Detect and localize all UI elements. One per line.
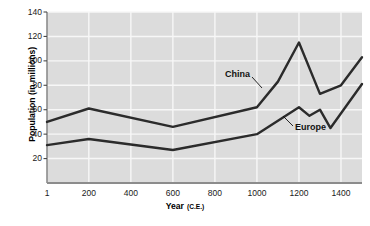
x-axis-title: Year(C.E.) bbox=[0, 202, 370, 211]
x-axis-title-main: Year bbox=[166, 201, 184, 211]
x-tick-label: 600 bbox=[153, 189, 193, 198]
y-tick-label: 20 bbox=[10, 154, 42, 163]
population-line-chart: 20406080100120140 1200400600800100012001… bbox=[0, 0, 370, 226]
x-axis-title-unit: (C.E.) bbox=[184, 203, 204, 210]
y-tick-label: 140 bbox=[10, 8, 42, 17]
x-tick-label: 800 bbox=[195, 189, 235, 198]
x-tick-label: 1 bbox=[27, 189, 67, 198]
series-label-europe: Europe bbox=[295, 123, 326, 132]
series-label-china: China bbox=[225, 70, 250, 79]
x-tick-label: 1400 bbox=[321, 189, 361, 198]
x-tick-label: 400 bbox=[111, 189, 151, 198]
x-tick-label: 1200 bbox=[279, 189, 319, 198]
y-axis-title: Population (in millions) bbox=[28, 14, 37, 174]
x-tick-label: 200 bbox=[69, 189, 109, 198]
plot-area-background bbox=[47, 12, 362, 183]
x-tick-label: 1000 bbox=[237, 189, 277, 198]
y-tick-label: 120 bbox=[10, 32, 42, 41]
